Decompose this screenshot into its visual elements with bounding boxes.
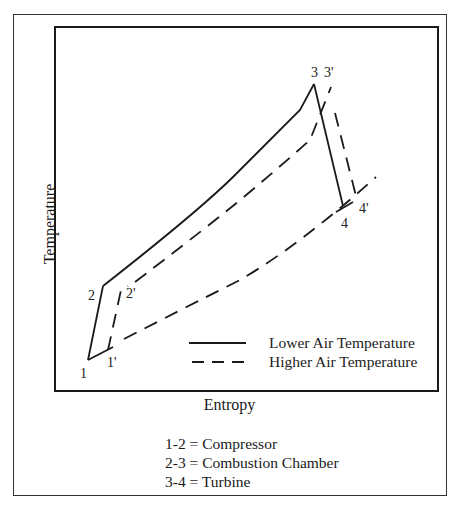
- dashed-compressor-line: [108, 286, 128, 350]
- x-axis-label: Entropy: [0, 396, 459, 414]
- dashed-return-line: [124, 177, 376, 339]
- cycle-higher-air-temperature: [108, 87, 376, 350]
- note-compressor: 1-2 = Compressor: [165, 434, 339, 453]
- point-label-2: 2: [88, 288, 95, 303]
- ts-diagram-plot: 1 1' 2 2' 3 3' 4 4' Lower Air Temperatur…: [0, 0, 459, 508]
- cycle-lower-air-temperature: [88, 84, 353, 360]
- legend: Lower Air Temperature Higher Air Tempera…: [189, 334, 418, 370]
- y-axis-label: Temperature: [41, 154, 59, 294]
- solid-combustion-line: [103, 84, 314, 286]
- solid-turbine-line: [314, 84, 343, 206]
- point-label-2-prime: 2': [126, 286, 136, 301]
- point-label-1-prime: 1': [107, 355, 117, 370]
- note-combustion-chamber: 2-3 = Combustion Chamber: [165, 453, 339, 472]
- dashed-combustion-line: [135, 87, 331, 282]
- point-label-4-prime: 4': [359, 201, 369, 216]
- point-label-3-prime: 3': [324, 65, 334, 80]
- point-label-3: 3: [311, 65, 318, 80]
- legend-label-lower: Lower Air Temperature: [269, 334, 415, 351]
- note-turbine: 3-4 = Turbine: [165, 472, 339, 491]
- legend-label-higher: Higher Air Temperature: [269, 353, 418, 370]
- point-label-4: 4: [341, 216, 348, 231]
- point-label-1: 1: [80, 366, 87, 381]
- process-notes: 1-2 = Compressor 2-3 = Combustion Chambe…: [165, 434, 339, 491]
